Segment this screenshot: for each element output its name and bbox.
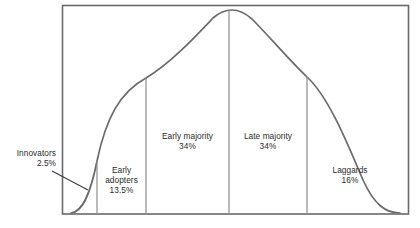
adoption-curve-figure: Innovators 2.5% Early adopters 13.5% Ear… bbox=[0, 0, 420, 228]
innovators-name: Innovators bbox=[0, 148, 56, 158]
segment-label-innovators: Innovators 2.5% bbox=[0, 148, 56, 168]
innovators-percent: 2.5% bbox=[0, 158, 56, 168]
adoption-curve-graphic bbox=[0, 0, 420, 228]
